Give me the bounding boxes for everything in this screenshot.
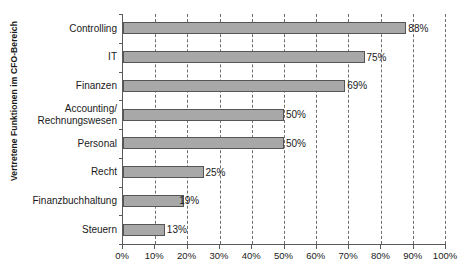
- x-axis-tick-label: 20%: [177, 250, 196, 261]
- x-axis-tick-label: 50%: [274, 250, 293, 261]
- bar: [123, 109, 284, 121]
- bar-row: 19%: [123, 187, 445, 216]
- bar-chart: Vertretene Funktionen im CFO-Bereich Con…: [0, 0, 465, 278]
- x-axis-tick: [251, 244, 252, 249]
- category-label: IT: [16, 43, 120, 72]
- category-label: Steuern: [16, 215, 120, 244]
- bar-row: 13%: [123, 215, 445, 244]
- category-label: Accounting/Rechnungswesen: [16, 100, 120, 129]
- category-axis: ControllingITFinanzenAccounting/Rechnung…: [16, 14, 120, 244]
- x-axis-tick: [348, 244, 349, 249]
- bar: [123, 195, 184, 207]
- x-axis-tick: [413, 244, 414, 249]
- x-axis-tick-label: 0%: [115, 250, 129, 261]
- bar-row: 88%: [123, 14, 445, 43]
- x-axis-tick: [445, 244, 446, 249]
- bar-value-label: 88%: [408, 23, 428, 34]
- x-axis-tick-labels: 0%10%20%30%40%50%60%70%80%90%100%: [122, 250, 445, 266]
- x-axis-tick: [154, 244, 155, 249]
- category-label: Finanzbuchhaltung: [16, 187, 120, 216]
- plot-area: 88%75%69%50%50%25%19%13%: [122, 14, 445, 244]
- bar: [123, 166, 204, 178]
- x-axis-tick: [284, 244, 285, 249]
- x-axis-tick-label: 70%: [339, 250, 358, 261]
- x-axis-tick-label: 80%: [371, 250, 390, 261]
- x-axis-ticks: [122, 244, 445, 249]
- x-axis-tick: [122, 244, 123, 249]
- bar-value-label: 75%: [367, 52, 387, 63]
- x-axis-tick-label: 100%: [433, 250, 457, 261]
- category-label: Finanzen: [16, 72, 120, 101]
- x-axis-tick: [219, 244, 220, 249]
- bar-row: 25%: [123, 158, 445, 187]
- bar-value-label: 13%: [167, 224, 187, 235]
- x-axis-tick-label: 60%: [306, 250, 325, 261]
- bar-row: 69%: [123, 72, 445, 101]
- x-axis-tick-label: 40%: [242, 250, 261, 261]
- bar-value-label: 69%: [347, 80, 367, 91]
- bar: [123, 80, 345, 92]
- bar-row: 50%: [123, 129, 445, 158]
- bar-row: 50%: [123, 100, 445, 129]
- x-axis-tick-label: 30%: [209, 250, 228, 261]
- category-label: Personal: [16, 129, 120, 158]
- x-axis-tick: [187, 244, 188, 249]
- bar: [123, 137, 284, 149]
- x-axis-tick-label: 10%: [145, 250, 164, 261]
- bar-value-label: 50%: [286, 109, 306, 120]
- bar-value-label: 50%: [286, 138, 306, 149]
- bar: [123, 22, 406, 34]
- bar: [123, 51, 365, 63]
- bar-value-label: 19%: [179, 195, 199, 206]
- x-axis-tick: [380, 244, 381, 249]
- bar: [123, 224, 165, 236]
- bar-row: 75%: [123, 43, 445, 72]
- x-axis-tick: [316, 244, 317, 249]
- gridline: [445, 14, 446, 244]
- bar-series: 88%75%69%50%50%25%19%13%: [123, 14, 445, 244]
- category-label: Controlling: [16, 14, 120, 43]
- category-label: Recht: [16, 158, 120, 187]
- x-axis-tick-label: 90%: [403, 250, 422, 261]
- bar-value-label: 25%: [206, 167, 226, 178]
